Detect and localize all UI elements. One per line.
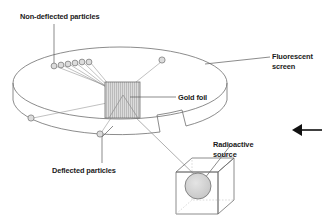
direction-arrow-head — [292, 124, 302, 136]
deflected-ray-group — [33, 62, 161, 133]
label-fluorescent-screen-line1: Fluorescent — [272, 52, 313, 62]
diagram-canvas: Non-deflected particles Fluorescent scre… — [0, 0, 322, 221]
label-fluorescent-screen-line2: screen — [272, 62, 313, 72]
leader-fluorescent-screen — [205, 57, 270, 64]
radioactive-source-box — [176, 158, 234, 214]
incident-beam-line — [130, 112, 200, 180]
non-deflected-particle — [58, 62, 64, 68]
source-cube-right-face — [218, 158, 234, 214]
label-gold-foil: Gold foil — [178, 93, 207, 103]
non-deflected-particle — [79, 59, 85, 65]
label-radioactive-source-line2: source — [213, 150, 253, 160]
deflected-particle — [97, 131, 103, 137]
label-non-deflected-particles: Non-deflected particles — [20, 12, 99, 22]
direction-arrow — [292, 124, 322, 136]
deflected-particle — [28, 115, 34, 121]
non-deflected-particle-group — [51, 59, 92, 69]
non-deflected-particle — [65, 61, 71, 67]
source-sphere — [185, 173, 211, 199]
label-deflected-particles: Deflected particles — [52, 166, 116, 176]
screen-gap-right-edge — [182, 110, 186, 126]
screen-gap-top-edge — [157, 110, 182, 115]
non-deflected-particle — [86, 59, 92, 65]
deflected-particle — [159, 57, 165, 63]
label-fluorescent-screen: Fluorescent screen — [272, 52, 313, 71]
gold-foil-target — [105, 82, 140, 118]
label-radioactive-source: Radioactive source — [213, 140, 253, 159]
leader-deflected-box — [102, 126, 113, 137]
screen-gap-left-edge — [157, 115, 160, 132]
non-deflected-particle — [72, 60, 78, 66]
non-deflected-ray — [55, 66, 112, 88]
diagram-svg — [0, 0, 322, 221]
non-deflected-particle — [51, 63, 57, 69]
label-radioactive-source-line1: Radioactive — [213, 140, 253, 150]
